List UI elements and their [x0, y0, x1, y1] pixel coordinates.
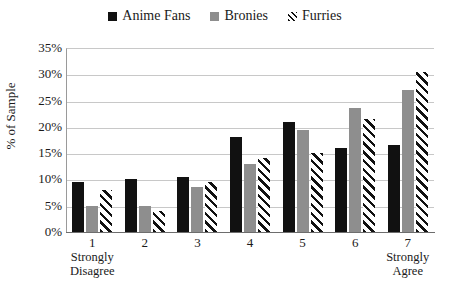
bar-bronies-3 — [191, 187, 203, 232]
bars-layer — [66, 48, 434, 232]
x-axis-tick-number: 2 — [119, 235, 172, 250]
bar-group — [276, 48, 329, 232]
legend-swatch-icon-bronies — [210, 12, 219, 21]
x-axis-anchor-label: Disagree — [66, 264, 119, 278]
bar-group — [381, 48, 434, 232]
x-axis-tick-7: 7StronglyAgree — [381, 235, 434, 278]
bar-anime-fans-2 — [125, 179, 137, 232]
legend-label-bronies: Bronies — [224, 9, 268, 23]
x-axis-line — [66, 232, 435, 233]
bar-group — [329, 48, 382, 232]
x-axis-tick-6: 6 — [329, 235, 382, 250]
legend-entry-bronies: Bronies — [210, 9, 268, 23]
bar-furries-5 — [311, 153, 323, 232]
bar-group — [119, 48, 172, 232]
y-axis-tick-label: 0% — [20, 225, 62, 238]
y-axis-tick-label: 20% — [20, 120, 62, 133]
bar-furries-4 — [258, 158, 270, 232]
bar-bronies-1 — [86, 206, 98, 232]
y-axis-title-text: % of Sample — [3, 82, 19, 149]
y-axis-tick-labels: 35%30%25%20%15%10%5%0% — [18, 48, 62, 232]
legend-label-anime-fans: Anime Fans — [122, 9, 190, 23]
y-axis-tick-label: 5% — [20, 199, 62, 212]
bar-group — [66, 48, 119, 232]
x-axis-tick-number: 4 — [224, 235, 277, 250]
bar-bronies-7 — [402, 90, 414, 232]
bar-anime-fans-4 — [230, 137, 242, 232]
x-axis-tick-labels: 1StronglyDisagree234567StronglyAgree — [66, 235, 434, 293]
bar-anime-fans-5 — [283, 122, 295, 232]
x-axis-tick-3: 3 — [171, 235, 224, 250]
bar-anime-fans-7 — [388, 145, 400, 232]
x-axis-tick-2: 2 — [119, 235, 172, 250]
legend-entry-anime-fans: Anime Fans — [108, 9, 190, 23]
x-axis-tick-number: 1 — [66, 235, 119, 250]
bar-bronies-5 — [297, 130, 309, 233]
x-axis-tick-1: 1StronglyDisagree — [66, 235, 119, 278]
bar-anime-fans-3 — [177, 177, 189, 232]
y-axis-tick-label: 35% — [20, 41, 62, 54]
legend-swatch-icon-anime-fans — [108, 12, 117, 21]
x-axis-tick-5: 5 — [276, 235, 329, 250]
bar-furries-6 — [363, 119, 375, 232]
legend-entry-furries: Furries — [288, 9, 342, 23]
x-axis-tick-number: 6 — [329, 235, 382, 250]
y-axis-tick-label: 10% — [20, 172, 62, 185]
bar-furries-3 — [205, 182, 217, 232]
bar-bronies-4 — [244, 164, 256, 232]
x-axis-tick-number: 3 — [171, 235, 224, 250]
legend-swatch-icon-furries — [288, 12, 297, 21]
y-axis-tick-label: 25% — [20, 94, 62, 107]
bar-furries-2 — [153, 211, 165, 232]
bar-furries-7 — [416, 72, 428, 232]
x-axis-tick-4: 4 — [224, 235, 277, 250]
y-axis-tick-label: 15% — [20, 146, 62, 159]
x-axis-anchor-label: Strongly — [66, 250, 119, 264]
bar-furries-1 — [100, 190, 112, 232]
bar-group — [224, 48, 277, 232]
bar-anime-fans-6 — [335, 148, 347, 232]
x-axis-anchor-label: Agree — [381, 264, 434, 278]
bar-anime-fans-1 — [72, 182, 84, 232]
x-axis-tick-number: 7 — [381, 235, 434, 250]
bar-bronies-6 — [349, 108, 361, 232]
bar-bronies-2 — [139, 206, 151, 232]
x-axis-anchor-label: Strongly — [381, 250, 434, 264]
y-axis-tick-label: 30% — [20, 67, 62, 80]
bar-chart: Anime Fans Bronies Furries % of Sample 3… — [0, 0, 450, 296]
x-axis-tick-number: 5 — [276, 235, 329, 250]
bar-group — [171, 48, 224, 232]
legend-label-furries: Furries — [302, 9, 342, 23]
chart-legend: Anime Fans Bronies Furries — [0, 9, 450, 23]
